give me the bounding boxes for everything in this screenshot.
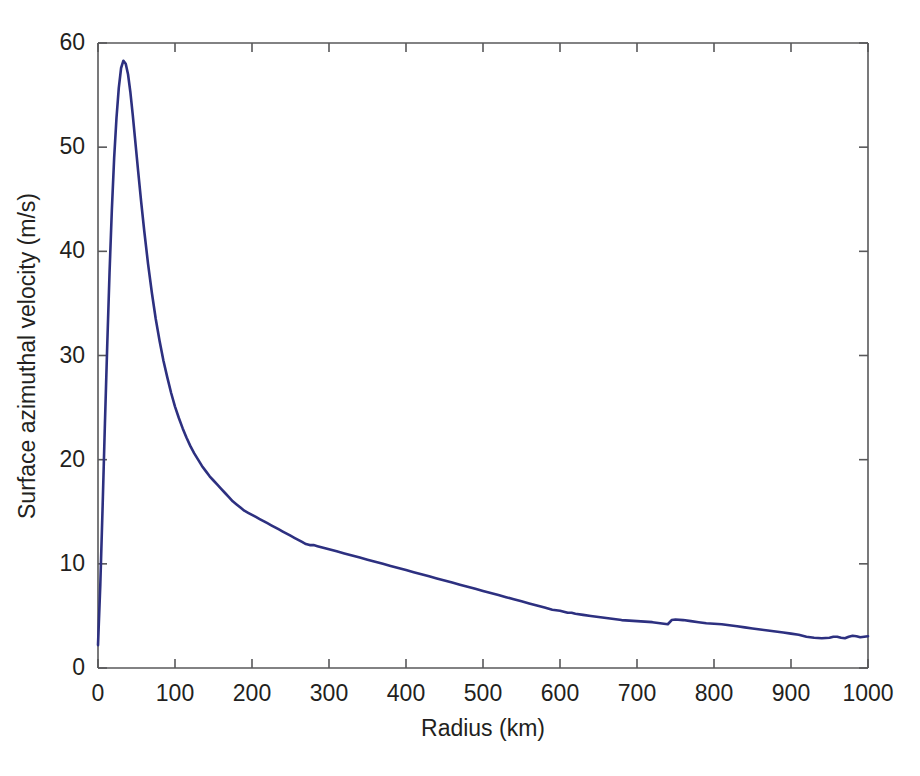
tick-labels-group: 0100200300400500600700800900100001020304…: [59, 29, 893, 706]
x-axis-title: Radius (km): [421, 715, 545, 741]
y-tick-label: 40: [59, 237, 85, 263]
y-tick-label: 60: [59, 29, 85, 55]
y-tick-label: 50: [59, 133, 85, 159]
y-tick-label: 30: [59, 342, 85, 368]
data-series-group: [98, 61, 868, 645]
x-tick-label: 200: [233, 680, 271, 706]
y-tick-label: 0: [72, 654, 85, 680]
x-tick-label: 1000: [842, 680, 893, 706]
line-chart-canvas: 0100200300400500600700800900100001020304…: [0, 0, 920, 776]
x-tick-label: 900: [772, 680, 810, 706]
axes-group: [98, 43, 868, 668]
x-tick-label: 800: [695, 680, 733, 706]
x-tick-label: 600: [541, 680, 579, 706]
x-tick-label: 100: [156, 680, 194, 706]
x-tick-label: 700: [618, 680, 656, 706]
chart-figure: 0100200300400500600700800900100001020304…: [0, 0, 920, 776]
y-tick-label: 10: [59, 550, 85, 576]
x-tick-label: 300: [310, 680, 348, 706]
x-tick-label: 500: [464, 680, 502, 706]
y-axis-title: Surface azimuthal velocity (m/s): [14, 193, 40, 519]
y-tick-label: 20: [59, 446, 85, 472]
axis-ticks-group: [98, 43, 868, 668]
series-line: [98, 61, 868, 645]
x-tick-label: 400: [387, 680, 425, 706]
x-tick-label: 0: [92, 680, 105, 706]
